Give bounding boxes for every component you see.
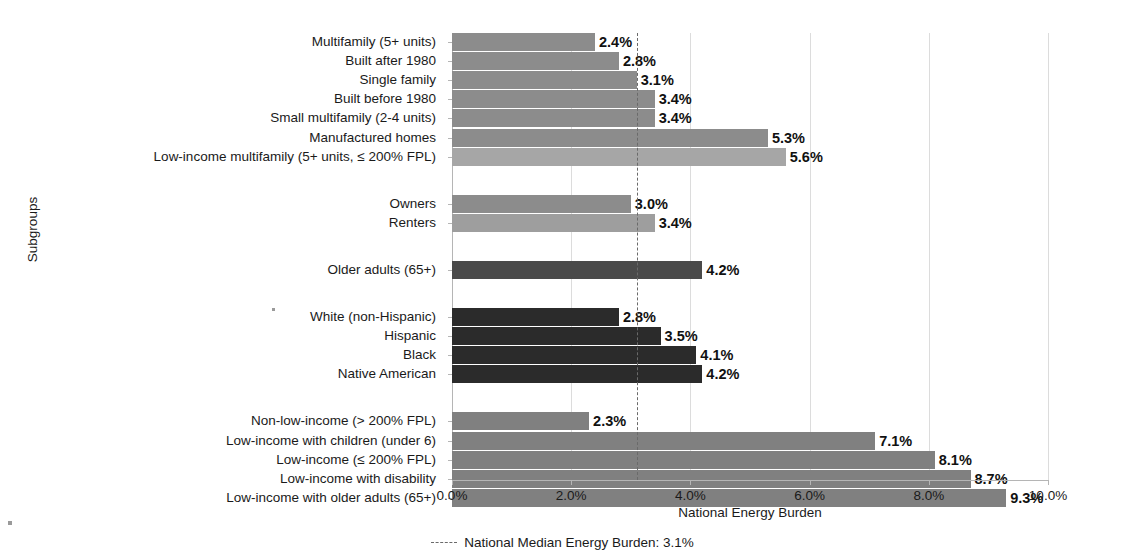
bar (452, 470, 971, 488)
bar-row: 7.1% (452, 432, 1048, 450)
bar (452, 308, 619, 326)
bar (452, 129, 768, 147)
bar (452, 451, 935, 469)
bar-value-label: 5.6% (786, 149, 823, 165)
category-label: Older adults (65+) (328, 261, 436, 279)
bar-value-label: 4.1% (696, 347, 733, 363)
bar-value-label: 4.2% (702, 366, 739, 382)
category-label-column: Multifamily (5+ units)Built after 1980Si… (0, 33, 446, 480)
bar-chart: Subgroups Multifamily (5+ units)Built af… (0, 0, 1125, 560)
x-axis-tick-label: 8.0% (913, 488, 944, 503)
bar (452, 214, 655, 232)
bar-value-label: 3.4% (655, 215, 692, 231)
x-axis-tick-mark (571, 480, 572, 485)
category-label: Owners (389, 195, 436, 213)
x-axis-tick-mark (452, 480, 453, 485)
bar-row: 3.4% (452, 109, 1048, 127)
bar-row: 4.2% (452, 261, 1048, 279)
category-label: Renters (389, 214, 436, 232)
category-label: Low-income with children (under 6) (226, 432, 436, 450)
bar-value-label: 7.1% (875, 433, 912, 449)
bar (452, 90, 655, 108)
scan-speck (272, 308, 275, 311)
bar (452, 195, 631, 213)
bar-row: 5.6% (452, 148, 1048, 166)
bar-row: 3.0% (452, 195, 1048, 213)
x-axis-tick-label: 6.0% (794, 488, 825, 503)
x-axis-tick-label: 2.0% (556, 488, 587, 503)
bar-row: 4.2% (452, 365, 1048, 383)
bar-row: 2.4% (452, 33, 1048, 51)
bar-value-label: 2.3% (589, 413, 626, 429)
category-label: Low-income multifamily (5+ units, ≤ 200%… (154, 148, 436, 166)
bar (452, 261, 702, 279)
bar-value-label: 2.4% (595, 34, 632, 50)
bar-value-label: 3.4% (655, 110, 692, 126)
category-label: Small multifamily (2-4 units) (270, 109, 436, 127)
bar-row: 3.5% (452, 327, 1048, 345)
bar-row: 8.7% (452, 470, 1048, 488)
category-label: Native American (338, 365, 436, 383)
bar-value-label: 5.3% (768, 130, 805, 146)
legend: National Median Energy Burden: 3.1% (0, 535, 1125, 550)
bar-row: 2.8% (452, 52, 1048, 70)
category-label: Manufactured homes (309, 129, 436, 147)
bar (452, 52, 619, 70)
bar-value-label: 3.1% (637, 72, 674, 88)
bar-value-label: 3.5% (661, 328, 698, 344)
bar-row: 3.4% (452, 214, 1048, 232)
bar-row: 3.1% (452, 71, 1048, 89)
category-label: Low-income (≤ 200% FPL) (276, 451, 436, 469)
x-axis-tick-label: 10.0% (1029, 488, 1067, 503)
bar (452, 346, 696, 364)
plot-area: 2.4%2.8%3.1%3.4%3.4%5.3%5.6%3.0%3.4%4.2%… (452, 33, 1048, 480)
category-label: Built after 1980 (345, 52, 436, 70)
bar (452, 412, 589, 430)
category-label: Low-income with disability (280, 470, 436, 488)
category-label: Built before 1980 (334, 90, 436, 108)
bar-row: 2.3% (452, 412, 1048, 430)
bar (452, 365, 702, 383)
category-label: Single family (359, 71, 436, 89)
x-axis-tick-mark (1048, 480, 1049, 485)
bar-row: 2.8% (452, 308, 1048, 326)
x-axis-tick-label: 0.0% (437, 488, 468, 503)
category-label: Non-low-income (> 200% FPL) (251, 412, 436, 430)
x-axis-tick-mark (810, 480, 811, 485)
category-label: Black (403, 346, 436, 364)
bar (452, 432, 875, 450)
bar (452, 71, 637, 89)
bar (452, 148, 786, 166)
dashed-line-icon (431, 542, 457, 543)
bar-row: 5.3% (452, 129, 1048, 147)
category-label: Low-income with older adults (65+) (226, 489, 436, 507)
bar (452, 109, 655, 127)
bar-row: 8.1% (452, 451, 1048, 469)
x-axis-tick-mark (690, 480, 691, 485)
bar-value-label: 4.2% (702, 262, 739, 278)
x-axis-tick-mark (929, 480, 930, 485)
category-label: Hispanic (384, 327, 436, 345)
bar-value-label: 8.1% (935, 452, 972, 468)
bar-value-label: 3.4% (655, 91, 692, 107)
bar-row: 4.1% (452, 346, 1048, 364)
bar-value-label: 8.7% (971, 471, 1008, 487)
bar-row: 3.4% (452, 90, 1048, 108)
legend-label: National Median Energy Burden: 3.1% (464, 535, 694, 550)
gridline (1048, 33, 1049, 480)
category-label: Multifamily (5+ units) (312, 33, 436, 51)
x-axis-tick-label: 4.0% (675, 488, 706, 503)
median-reference-line (637, 33, 638, 480)
bar (452, 327, 661, 345)
category-label: White (non-Hispanic) (310, 308, 436, 326)
scan-speck (8, 521, 12, 525)
x-axis-title: National Energy Burden (452, 505, 1048, 520)
bar (452, 33, 595, 51)
x-axis-line: 0.0%2.0%4.0%6.0%8.0%10.0% (452, 480, 1048, 481)
